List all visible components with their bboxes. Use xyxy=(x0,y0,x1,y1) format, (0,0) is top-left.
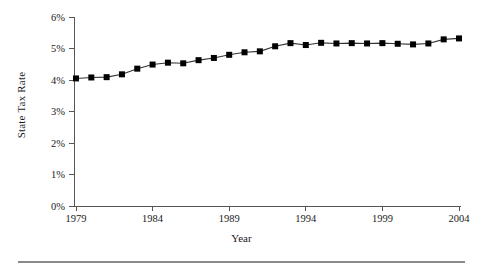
data-point-marker xyxy=(456,35,462,41)
data-point-marker xyxy=(410,41,416,47)
data-point-marker xyxy=(257,48,263,54)
data-point-marker xyxy=(303,42,309,48)
data-point-marker xyxy=(349,40,355,46)
data-point-marker xyxy=(318,40,324,46)
chart-plot-area: State Tax Rate 6%5%4%3%2%1%0% 1979198419… xyxy=(0,0,483,248)
data-point-marker xyxy=(119,71,125,77)
series-marker-group xyxy=(73,35,462,81)
figure-container: State Tax Rate 6%5%4%3%2%1%0% 1979198419… xyxy=(0,0,483,273)
data-point-marker xyxy=(104,74,110,80)
x-axis-tick-group: 197919841989199419992004 xyxy=(66,206,471,224)
data-point-marker xyxy=(364,40,370,46)
data-point-marker xyxy=(211,55,217,61)
x-axis-tick-label: 1984 xyxy=(142,213,164,224)
y-axis-tick-label: 1% xyxy=(51,169,65,180)
data-point-marker xyxy=(180,60,186,66)
x-axis-tick-label: 1979 xyxy=(66,213,87,224)
data-point-marker xyxy=(88,74,94,80)
data-point-marker xyxy=(226,52,232,58)
y-axis-tick-label: 6% xyxy=(51,12,65,23)
y-axis-tick-label: 5% xyxy=(51,43,65,54)
data-point-marker xyxy=(134,66,140,72)
data-point-marker xyxy=(73,75,79,81)
data-point-marker xyxy=(165,60,171,66)
data-point-marker xyxy=(272,43,278,49)
line-chart-svg: 6%5%4%3%2%1%0% 197919841989199419992004 xyxy=(0,0,483,248)
data-point-marker xyxy=(150,62,156,68)
y-axis-tick-label: 2% xyxy=(51,138,65,149)
data-point-marker xyxy=(242,49,248,55)
data-point-marker xyxy=(333,40,339,46)
data-point-marker xyxy=(287,40,293,46)
x-axis-tick-label: 2004 xyxy=(449,213,471,224)
x-axis-tick-label: 1999 xyxy=(372,213,393,224)
y-axis-tick-group: 6%5%4%3%2%1%0% xyxy=(51,12,74,212)
series-line-state-tax-rate xyxy=(76,38,459,78)
x-axis-tick-label: 1989 xyxy=(219,213,240,224)
data-point-marker xyxy=(379,40,385,46)
data-point-marker xyxy=(425,40,431,46)
data-point-marker xyxy=(395,41,401,47)
data-point-marker xyxy=(196,57,202,63)
y-axis-tick-label: 0% xyxy=(51,201,65,212)
footer-divider xyxy=(18,261,465,263)
x-axis-tick-label: 1994 xyxy=(295,213,317,224)
data-point-marker xyxy=(441,36,447,42)
y-axis-tick-label: 4% xyxy=(51,75,65,86)
y-axis-tick-label: 3% xyxy=(51,106,65,117)
x-axis-title: Year xyxy=(0,232,483,244)
